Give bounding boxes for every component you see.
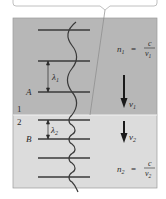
callout-bubble xyxy=(13,0,157,10)
svg-text:c: c xyxy=(148,39,152,48)
point-b-label: B xyxy=(26,134,32,144)
svg-text:=: = xyxy=(131,44,136,54)
region-2-label: 2 xyxy=(17,117,22,127)
svg-text:=: = xyxy=(131,164,136,174)
svg-text:c: c xyxy=(148,159,152,168)
refraction-wavelength-diagram: 1 A λ1 v1 n1 = c v1 2 B λ2 v2 n2 = c v2 xyxy=(0,0,166,199)
region-1-label: 1 xyxy=(17,104,22,114)
medium-1-region xyxy=(13,18,157,115)
point-a-label: A xyxy=(25,87,32,97)
